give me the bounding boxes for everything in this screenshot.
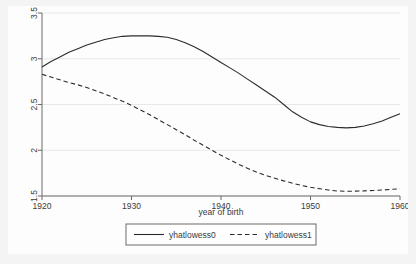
x-tick-label: 1930 bbox=[122, 201, 141, 211]
lowess-line-chart[interactable]: 1.522.533.5 19201930194019501960 year of… bbox=[8, 6, 408, 254]
y-tick-label: 2 bbox=[29, 148, 39, 153]
x-tick-label: 1950 bbox=[301, 201, 320, 211]
y-tick-label: 2.5 bbox=[29, 98, 39, 110]
x-tick-label: 1960 bbox=[391, 201, 408, 211]
legend-label-yhatlowess0[interactable]: yhatlowess0 bbox=[169, 230, 216, 240]
legend-label-yhatlowess1[interactable]: yhatlowess1 bbox=[265, 230, 312, 240]
legend[interactable]: yhatlowess0 yhatlowess1 bbox=[126, 224, 316, 245]
x-tick-label: 1920 bbox=[33, 201, 52, 211]
graph-surface: 1.522.533.5 19201930194019501960 year of… bbox=[8, 6, 408, 254]
x-axis-title: year of birth bbox=[199, 207, 244, 217]
graph-window: 1.522.533.5 19201930194019501960 year of… bbox=[0, 0, 416, 264]
y-tick-label: 3 bbox=[29, 56, 39, 61]
y-tick-label: 3.5 bbox=[29, 7, 39, 19]
